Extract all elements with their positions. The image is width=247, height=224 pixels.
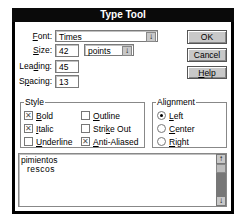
scroll-down-arrow-icon[interactable]: ↓ <box>216 196 226 206</box>
dropdown-arrow-icon[interactable]: ↓ <box>122 46 132 56</box>
bold-label[interactable]: Bold <box>36 111 53 121</box>
font-label: Font: <box>12 30 52 42</box>
outline-label[interactable]: Outline <box>93 111 120 121</box>
size-unit-value: points <box>88 46 111 56</box>
dialog-title: Type Tool <box>100 9 146 20</box>
ok-button[interactable]: OK <box>187 30 227 44</box>
left-radio[interactable] <box>157 111 166 120</box>
leading-label: Leading: <box>12 60 52 72</box>
strikeout-label[interactable]: Strike Out <box>93 124 131 134</box>
size-label: Size: <box>12 44 52 56</box>
text-input-area[interactable]: pimientos rescos <box>18 153 227 207</box>
dropdown-arrow-icon[interactable]: ↓ <box>146 32 156 42</box>
underline-checkbox[interactable] <box>24 137 33 146</box>
left-label[interactable]: Left <box>169 111 183 121</box>
text-line-2: rescos <box>27 165 55 174</box>
bold-checkbox[interactable]: ✕ <box>24 111 33 120</box>
antialiased-checkbox[interactable]: ✕ <box>81 137 90 146</box>
scroll-track[interactable] <box>216 173 226 196</box>
size-input[interactable]: 42 <box>55 44 79 57</box>
italic-label[interactable]: Italic <box>36 124 54 134</box>
spacing-input[interactable]: 13 <box>55 75 79 88</box>
style-group-title: Style <box>24 97 45 107</box>
italic-checkbox[interactable]: ✕ <box>24 124 33 133</box>
outline-checkbox[interactable] <box>81 111 90 120</box>
size-unit-select[interactable]: points ↓ <box>84 44 134 56</box>
antialiased-label[interactable]: Anti-Aliased <box>93 137 138 147</box>
alignment-group-title: Alignment <box>156 97 196 107</box>
right-label[interactable]: Right <box>169 137 189 147</box>
title-bar[interactable]: Type Tool <box>12 8 234 22</box>
center-radio[interactable] <box>157 124 166 133</box>
center-label[interactable]: Center <box>169 124 195 134</box>
underline-label[interactable]: Underline <box>36 137 72 147</box>
font-select[interactable]: Times ↓ <box>55 30 158 42</box>
cancel-button[interactable]: Cancel <box>187 48 227 62</box>
radio-selected-dot <box>160 114 163 117</box>
leading-input[interactable]: 45 <box>55 60 79 73</box>
right-radio[interactable] <box>157 137 166 146</box>
help-button[interactable]: Help <box>187 66 227 79</box>
spacing-label: Spacing: <box>12 75 52 87</box>
font-value: Times <box>59 32 82 42</box>
strikeout-checkbox[interactable] <box>81 124 90 133</box>
scroll-up-arrow-icon[interactable]: ↑ <box>216 154 226 164</box>
scroll-thumb[interactable] <box>216 164 226 173</box>
